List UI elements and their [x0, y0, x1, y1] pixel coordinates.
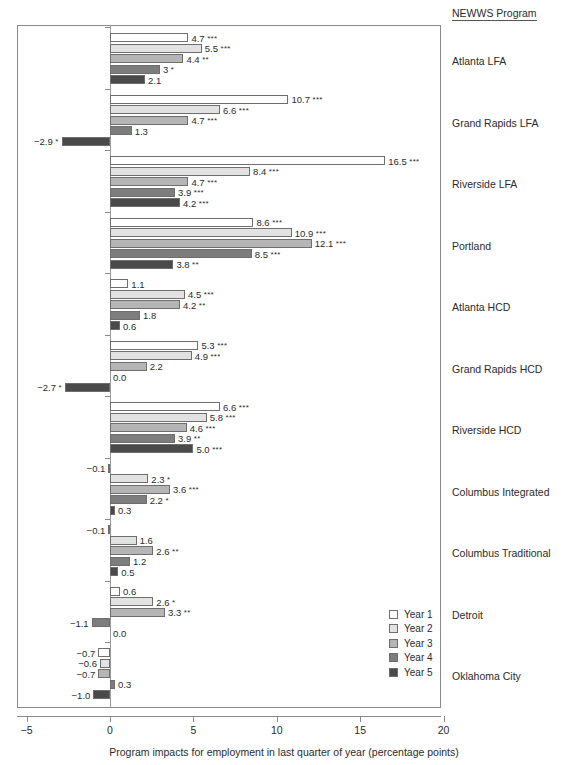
- bar-label: −0.1: [87, 464, 106, 473]
- bar: [110, 279, 128, 288]
- bar-label: 0.3: [118, 680, 131, 689]
- bar-label: −0.1: [87, 526, 106, 535]
- legend-label: Year 1: [404, 609, 433, 620]
- bar-label: 4.9 ***: [195, 352, 221, 361]
- bar-value-label: 2.2: [150, 361, 163, 372]
- bar-value-label: 4.4: [186, 54, 199, 65]
- bar-value-label: 4.6: [190, 423, 203, 434]
- bar: [110, 218, 253, 227]
- significance-stars: ***: [310, 95, 323, 104]
- bar-value-label: 4.9: [195, 351, 208, 362]
- legend-item[interactable]: Year 4: [389, 651, 433, 666]
- significance-stars: ***: [205, 34, 218, 43]
- group-tick: [105, 150, 110, 151]
- group-tick: [105, 335, 110, 336]
- significance-stars: *: [165, 475, 171, 484]
- significance-stars: **: [191, 434, 200, 443]
- bar-label: 6.6 ***: [223, 403, 249, 412]
- x-axis-tick-label: 5: [190, 724, 196, 736]
- bar-value-label: −1.1: [70, 618, 89, 629]
- x-axis-tick: [444, 716, 445, 722]
- bar-value-label: 4.7: [191, 177, 204, 188]
- bar-value-label: 0.3: [118, 679, 131, 690]
- legend-swatch-icon: [389, 624, 398, 633]
- bar: [110, 177, 188, 186]
- significance-stars: ***: [266, 167, 279, 176]
- legend-swatch-icon: [389, 653, 398, 662]
- bar: [108, 525, 110, 534]
- legend-item[interactable]: Year 5: [389, 665, 433, 680]
- bar-label: 4.7 ***: [191, 178, 217, 187]
- bar: [110, 260, 173, 269]
- group-tick: [105, 212, 110, 213]
- bar-value-label: −0.7: [77, 669, 96, 680]
- bar: [108, 464, 110, 473]
- bar: [110, 95, 288, 104]
- bar: [110, 321, 120, 330]
- significance-stars: ***: [333, 239, 346, 248]
- group-tick: [105, 581, 110, 582]
- bar-value-label: 2.6: [156, 546, 169, 557]
- bar-value-label: −1.0: [72, 690, 91, 701]
- significance-stars: ***: [196, 199, 209, 208]
- bar-label: 8.4 ***: [253, 167, 279, 176]
- bar-value-label: 2.6: [156, 597, 169, 608]
- bar-label: 4.7 ***: [191, 116, 217, 125]
- bar: [110, 485, 170, 494]
- bar: [110, 33, 188, 42]
- significance-stars: ***: [215, 341, 228, 350]
- group-label: Grand Rapids HCD: [452, 363, 542, 375]
- bar: [93, 690, 110, 699]
- bar: [110, 249, 252, 258]
- x-axis-tick-label: −5: [21, 724, 33, 736]
- bar-label: 4.7 ***: [191, 34, 217, 43]
- bar-label: 16.5 ***: [388, 157, 419, 166]
- bar-label: 1.1: [131, 280, 144, 289]
- significance-stars: ***: [208, 352, 221, 361]
- x-axis-tick: [110, 716, 111, 722]
- group-label: Grand Rapids LFA: [452, 117, 538, 129]
- significance-stars: ***: [203, 424, 216, 433]
- bar-label: 0.0: [113, 629, 126, 638]
- bar-value-label: 3.6: [173, 484, 186, 495]
- bar: [110, 239, 312, 248]
- x-axis-caption: Program impacts for employment in last q…: [0, 746, 568, 758]
- bar-value-label: 4.2: [183, 198, 196, 209]
- legend-item[interactable]: Year 1: [389, 607, 433, 622]
- bar-value-label: 6.6: [223, 402, 236, 413]
- bar: [110, 536, 137, 545]
- bar-label: 5.8 ***: [210, 413, 236, 422]
- bar-label: 4.5 ***: [188, 290, 214, 299]
- significance-stars: ***: [236, 106, 249, 115]
- bar-label: −0.6: [78, 659, 97, 668]
- legend-item[interactable]: Year 3: [389, 636, 433, 651]
- significance-stars: **: [200, 55, 209, 64]
- bar-value-label: 16.5: [388, 156, 407, 167]
- significance-stars: ***: [191, 188, 204, 197]
- bar-label: 6.6 ***: [223, 106, 249, 115]
- significance-stars: ***: [268, 250, 281, 259]
- bar: [110, 546, 153, 555]
- significance-stars: *: [53, 137, 59, 146]
- significance-stars: *: [170, 598, 176, 607]
- bar: [110, 506, 115, 515]
- bar-label: 2.2: [150, 362, 163, 371]
- bar: [110, 351, 192, 360]
- legend-swatch-icon: [389, 668, 398, 677]
- bar-label: 3.3 **: [168, 608, 191, 617]
- group-tick: [105, 642, 110, 643]
- bar: [110, 587, 120, 596]
- bar-value-label: 4.7: [191, 115, 204, 126]
- legend-item[interactable]: Year 2: [389, 622, 433, 637]
- bar: [110, 116, 188, 125]
- group-tick: [105, 519, 110, 520]
- significance-stars: ***: [407, 157, 420, 166]
- bar-value-label: 8.4: [253, 166, 266, 177]
- x-axis-tick: [277, 716, 278, 722]
- bar-value-label: 10.7: [291, 94, 310, 105]
- group-label: Columbus Traditional: [452, 547, 551, 559]
- bar-label: 8.6 ***: [256, 218, 282, 227]
- bar-label: −0.7: [77, 670, 96, 679]
- bar: [100, 659, 110, 668]
- significance-stars: ***: [205, 116, 218, 125]
